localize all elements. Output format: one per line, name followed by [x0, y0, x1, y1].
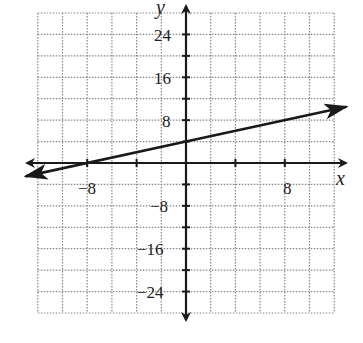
- tick-labels: −8 8 24 16 8 −8 −16 −24 x y: [78, 0, 345, 302]
- x-axis-label: x: [335, 167, 345, 189]
- y-tick-label-16: 16: [154, 69, 171, 88]
- axes: [27, 6, 346, 320]
- y-axis-label: y: [154, 0, 165, 19]
- y-tick-label-neg24: −24: [137, 283, 164, 302]
- y-tick-label-24: 24: [154, 26, 172, 45]
- series-line: [186, 107, 347, 142]
- x-tick-label-8: 8: [283, 179, 292, 198]
- x-tick-label-neg8: −8: [78, 179, 96, 198]
- y-tick-label-neg16: −16: [137, 240, 164, 259]
- y-tick-label-8: 8: [162, 112, 171, 131]
- series-line: [25, 142, 186, 177]
- y-tick-label-neg8: −8: [150, 197, 168, 216]
- coordinate-plane: −8 8 24 16 8 −8 −16 −24 x y: [0, 0, 363, 343]
